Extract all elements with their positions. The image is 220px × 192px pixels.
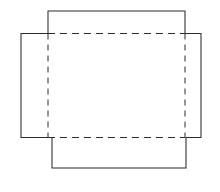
figure-root [0, 0, 220, 192]
page-background [0, 0, 220, 192]
box-net-diagram [0, 0, 220, 192]
